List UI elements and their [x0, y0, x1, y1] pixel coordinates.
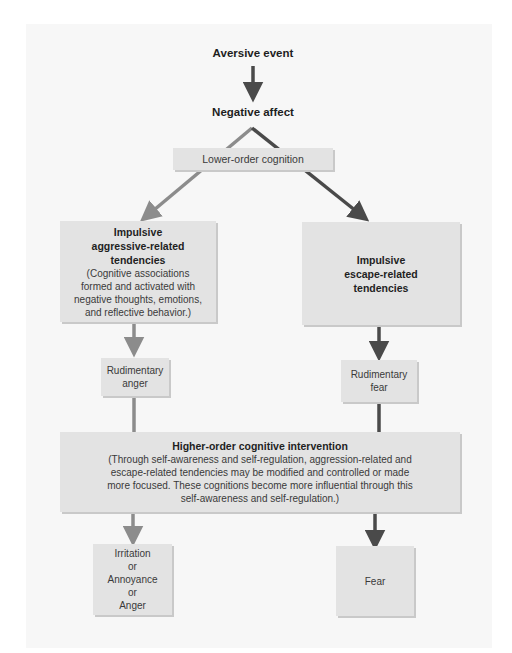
- higher-order-body-1: (Through self-awareness and self-regulat…: [108, 453, 412, 466]
- arrows-layer: [0, 0, 512, 653]
- escape-title-3: tendencies: [354, 281, 409, 295]
- node-rudimentary-fear: Rudimentary fear: [341, 360, 417, 402]
- escape-title-1: Impulsive: [357, 253, 405, 267]
- aggressive-title-3: tendencies: [111, 253, 166, 267]
- node-higher-order-intervention: Higher-order cognitive intervention (Thr…: [60, 432, 460, 512]
- anger-outcome-line-2: or: [128, 560, 137, 573]
- node-aversive-event: Aversive event: [203, 47, 303, 59]
- aggressive-body-2: formed and activated with: [81, 280, 195, 293]
- aggressive-body-4: and reflective behavior.): [85, 306, 191, 319]
- node-fear-outcome: Fear: [336, 546, 414, 616]
- rudimentary-anger-line-1: Rudimentary: [107, 364, 164, 377]
- aggressive-body-3: negative thoughts, emotions,: [74, 293, 202, 306]
- anger-outcome-line-4: or: [128, 586, 137, 599]
- lower-order-label: Lower-order cognition: [202, 153, 304, 166]
- node-anger-outcome: Irritation or Annoyance or Anger: [93, 544, 172, 615]
- escape-title-2: escape-related: [344, 267, 418, 281]
- diagram-canvas: Aversive event Negative affect Lower-ord…: [0, 0, 512, 653]
- anger-outcome-line-1: Irritation: [114, 547, 150, 560]
- aggressive-title-2: aggressive-related: [92, 239, 185, 253]
- rudimentary-anger-line-2: anger: [122, 377, 148, 390]
- node-escape-tendencies: Impulsive escape-related tendencies: [302, 222, 460, 325]
- aggressive-body-1: (Cognitive associations: [87, 267, 190, 280]
- higher-order-title: Higher-order cognitive intervention: [172, 439, 348, 453]
- node-lower-order-cognition: Lower-order cognition: [173, 148, 333, 170]
- aggressive-title-1: Impulsive: [114, 225, 162, 239]
- arrow-negative-to-aggressive: [148, 128, 252, 215]
- arrow-negative-to-escape: [252, 128, 361, 215]
- anger-outcome-line-3: Annoyance: [107, 573, 157, 586]
- node-aggressive-tendencies: Impulsive aggressive-related tendencies …: [60, 221, 216, 322]
- rudimentary-fear-line-2: fear: [370, 381, 387, 394]
- higher-order-body-2: escape-related tendencies may be modifie…: [111, 466, 410, 479]
- higher-order-body-3: more focused. These cognitions become mo…: [107, 479, 413, 492]
- higher-order-body-4: self-awareness and self-regulation.): [181, 492, 339, 505]
- node-negative-affect: Negative affect: [198, 106, 308, 118]
- anger-outcome-line-5: Anger: [119, 599, 146, 612]
- fear-outcome-label: Fear: [365, 575, 386, 588]
- node-rudimentary-anger: Rudimentary anger: [101, 358, 169, 396]
- rudimentary-fear-line-1: Rudimentary: [351, 368, 408, 381]
